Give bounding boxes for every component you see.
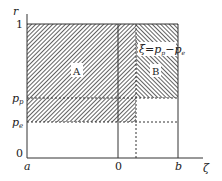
y-tick-0: 0	[16, 147, 23, 160]
region-b-label: B	[152, 66, 159, 77]
y-axis-label: r	[13, 5, 19, 18]
region-b	[136, 24, 178, 98]
y-tick-pp: pp	[12, 92, 24, 106]
x-axis-label: ζ	[203, 162, 210, 175]
region-a-label: A	[72, 66, 81, 77]
y-tick-1: 1	[16, 18, 23, 31]
x-tick-b: b	[175, 160, 182, 173]
y-tick-pe: pe	[12, 116, 23, 130]
x-tick-a: a	[24, 160, 31, 173]
x-tick-0: 0	[115, 160, 122, 173]
diagram-figure: r ζ 1 pp pe 0 a 0 b A B ξ=pp−pe	[0, 0, 222, 181]
